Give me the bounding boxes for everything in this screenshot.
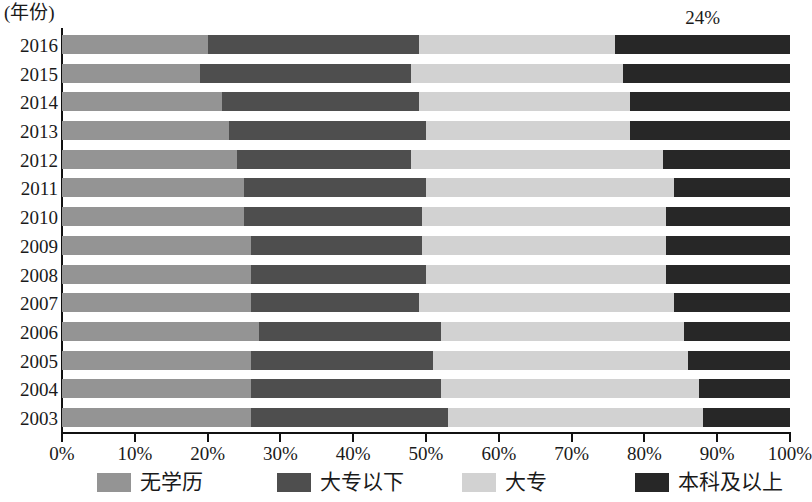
bar-segment [244, 207, 422, 226]
x-axis-tick [61, 434, 63, 442]
bar-segment [623, 64, 790, 83]
bar-row [62, 64, 790, 83]
bar-segment [674, 178, 790, 197]
y-axis-unit-label: (年份) [4, 2, 55, 24]
bar-segment [251, 236, 422, 255]
bar-row [62, 379, 790, 398]
bar-segment [222, 92, 419, 111]
x-axis-tick [789, 434, 791, 442]
legend-item-none[interactable]: 无学历 [97, 470, 203, 494]
bar-segment [251, 265, 426, 284]
x-axis-tick [352, 434, 354, 442]
x-axis-tick-label: 80% [627, 443, 662, 465]
y-axis-tick-label: 2012 [2, 151, 58, 170]
bar-segment [426, 178, 674, 197]
x-axis-tick [716, 434, 718, 442]
legend-swatch-icon [97, 473, 131, 492]
y-axis-tick-label: 2011 [2, 179, 58, 198]
y-axis-tick-label: 2009 [2, 237, 58, 256]
bar-segment [259, 322, 441, 341]
bar-segment [62, 408, 251, 427]
bar-segment [630, 121, 790, 140]
bar-segment [666, 207, 790, 226]
bar-segment [208, 35, 419, 54]
y-axis-tick-label: 2013 [2, 122, 58, 141]
bar-segment [615, 35, 790, 54]
bar-segment [229, 121, 426, 140]
legend-label: 无学历 [140, 470, 203, 494]
x-axis-tick-label: 100% [768, 443, 812, 465]
y-axis-tick-label: 2005 [2, 352, 58, 371]
bar-segment [62, 236, 251, 255]
bar-segment [666, 265, 790, 284]
legend-label: 本科及以上 [678, 470, 783, 494]
bar-row [62, 236, 790, 255]
y-axis-tick-labels: 2016201520142013201220112010200920082007… [0, 30, 58, 432]
x-axis-tick-label: 10% [117, 443, 152, 465]
legend-label: 大专 [505, 470, 547, 494]
bar-row [62, 322, 790, 341]
bar-row [62, 150, 790, 169]
bar-segment [419, 35, 616, 54]
bar-row [62, 121, 790, 140]
bar-segment [244, 178, 426, 197]
bar-segment [441, 322, 685, 341]
bar-segment [703, 408, 790, 427]
bar-segment [422, 207, 666, 226]
bar-row [62, 408, 790, 427]
bar-segment [419, 293, 674, 312]
bar-segment [251, 408, 448, 427]
legend-label: 大专以下 [320, 470, 404, 494]
bar-segment [62, 379, 251, 398]
x-axis-tick [425, 434, 427, 442]
x-axis-tick-label: 50% [409, 443, 444, 465]
bar-segment [441, 379, 699, 398]
bar-segment [411, 64, 622, 83]
legend-swatch-icon [277, 473, 311, 492]
y-axis-tick-label: 2006 [2, 323, 58, 342]
bar-segment [630, 92, 790, 111]
y-axis-tick-label: 2016 [2, 36, 58, 55]
bar-segment [62, 121, 229, 140]
y-axis-tick-label: 2007 [2, 294, 58, 313]
bar-segment [62, 293, 251, 312]
legend-item-college[interactable]: 大专 [462, 470, 547, 494]
bar-segment [684, 322, 790, 341]
x-axis-tick-label: 70% [554, 443, 589, 465]
y-axis-tick-label: 2014 [2, 93, 58, 112]
x-axis-tick [279, 434, 281, 442]
x-axis-tick-label: 90% [700, 443, 735, 465]
bar-segment [411, 150, 662, 169]
data-label: 24% [685, 8, 720, 28]
legend-swatch-icon [635, 473, 669, 492]
bar-segment [426, 265, 666, 284]
legend-item-bachelor_plus[interactable]: 本科及以上 [635, 470, 783, 494]
bar-segment [448, 408, 703, 427]
y-axis-tick-label: 2004 [2, 380, 58, 399]
x-axis-tick [571, 434, 573, 442]
bar-row [62, 265, 790, 284]
bar-segment [62, 92, 222, 111]
bar-segment [674, 293, 790, 312]
bar-segment [251, 293, 418, 312]
x-axis-tick-label: 40% [336, 443, 371, 465]
x-axis-tick-label: 0% [49, 443, 74, 465]
bar-segment [663, 150, 790, 169]
bar-segment [666, 236, 790, 255]
x-axis-tick [207, 434, 209, 442]
x-axis-tick-label: 30% [263, 443, 298, 465]
bar-segment [237, 150, 412, 169]
bar-segment [422, 236, 666, 255]
bar-segment [419, 92, 630, 111]
x-axis-tick [643, 434, 645, 442]
x-axis-tick [134, 434, 136, 442]
bar-segment [62, 178, 244, 197]
bar-segment [426, 121, 630, 140]
bar-segment [62, 265, 251, 284]
legend-item-sub_college[interactable]: 大专以下 [277, 470, 404, 494]
bar-segment [688, 351, 790, 370]
x-axis-tick [498, 434, 500, 442]
bar-segment [200, 64, 411, 83]
bar-segment [62, 322, 259, 341]
